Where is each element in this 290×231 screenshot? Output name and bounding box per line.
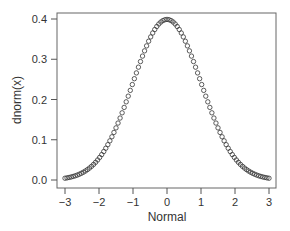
chart-canvas: 0.00.10.20.30.4 −3−2−10123 Normal dnorm(… <box>0 0 290 231</box>
data-point <box>193 65 197 69</box>
data-point <box>210 111 214 115</box>
data-point <box>142 49 146 53</box>
data-point <box>206 100 210 104</box>
y-tick-label: 0.4 <box>32 13 47 25</box>
x-axis-title: Normal <box>148 210 187 224</box>
y-tick-label: 0.0 <box>32 174 47 186</box>
data-point <box>116 121 120 125</box>
data-point <box>216 126 220 130</box>
x-tick-label: 0 <box>164 196 170 208</box>
data-point <box>191 59 195 63</box>
data-point <box>112 130 116 134</box>
data-point <box>181 35 185 39</box>
data-point <box>185 44 189 48</box>
data-point <box>126 94 130 98</box>
plot-area <box>57 13 276 188</box>
data-point <box>124 100 128 104</box>
y-axis-title: dnorm(x) <box>10 76 24 124</box>
data-point <box>146 39 150 43</box>
data-point <box>132 77 136 81</box>
data-point <box>114 126 118 130</box>
data-point <box>122 105 126 109</box>
data-point <box>187 49 191 53</box>
y-tick-label: 0.1 <box>32 134 47 146</box>
data-point <box>218 130 222 134</box>
data-point <box>189 54 193 58</box>
data-point <box>120 111 124 115</box>
data-point <box>199 82 203 86</box>
y-tick-label: 0.2 <box>32 94 47 106</box>
data-point <box>208 105 212 109</box>
data-point <box>202 88 206 92</box>
data-point <box>130 82 134 86</box>
data-point <box>212 116 216 120</box>
x-tick-label: −2 <box>93 196 106 208</box>
data-point <box>204 94 208 98</box>
data-point <box>144 44 148 48</box>
data-point <box>128 88 132 92</box>
data-point <box>195 71 199 75</box>
data-point <box>134 71 138 75</box>
data-point <box>118 116 122 120</box>
x-axis: −3−2−10123 <box>59 188 272 208</box>
x-tick-label: −3 <box>59 196 72 208</box>
y-axis: 0.00.10.20.30.4 <box>32 13 57 186</box>
x-tick-label: −1 <box>127 196 140 208</box>
data-points <box>63 17 271 180</box>
data-point <box>197 77 201 81</box>
data-point <box>136 65 140 69</box>
y-tick-label: 0.3 <box>32 53 47 65</box>
x-tick-label: 3 <box>266 196 272 208</box>
data-point <box>110 135 114 139</box>
x-tick-label: 2 <box>232 196 238 208</box>
data-point <box>138 59 142 63</box>
data-point <box>140 54 144 58</box>
data-point <box>183 39 187 43</box>
data-point <box>214 121 218 125</box>
x-tick-label: 1 <box>198 196 204 208</box>
